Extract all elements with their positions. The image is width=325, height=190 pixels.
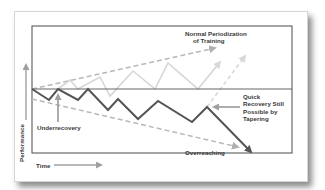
time-axis-label: Time bbox=[36, 162, 50, 169]
quick-label-line1: Quick bbox=[243, 93, 284, 100]
quick-label-line2: Recovery Still bbox=[243, 100, 284, 107]
performance-axis-label: Performance bbox=[18, 124, 25, 162]
quick-recovery-label: Quick Recovery Still Possible by Taperin… bbox=[243, 93, 284, 123]
normal-training-zigzag bbox=[58, 62, 220, 96]
quick-label-line3: Possible by bbox=[243, 108, 284, 115]
quick-label-line4: Tapering bbox=[243, 115, 284, 122]
normal-label-line2: of Training bbox=[185, 37, 247, 44]
underrecovery-label: Underrecovery bbox=[37, 124, 81, 131]
overreaching-zigzag bbox=[32, 89, 251, 152]
tapering-recovery-arrow bbox=[207, 56, 245, 107]
normal-periodization-trend-arrow bbox=[32, 48, 215, 89]
normal-label-line1: Normal Periodization bbox=[185, 30, 247, 37]
overreaching-label: Overreaching bbox=[185, 149, 225, 156]
normal-periodization-label: Normal Periodization of Training bbox=[185, 30, 247, 45]
